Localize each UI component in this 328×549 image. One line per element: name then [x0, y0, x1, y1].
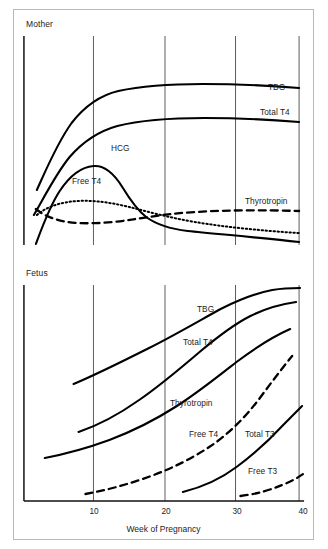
xtick-20: 20	[161, 506, 170, 516]
label-mother-thyrotropin: Thyrotropin	[245, 196, 288, 206]
label-fetus-tbg: TBG	[197, 304, 214, 314]
label-fetus-total-t4: Total T4	[183, 337, 213, 347]
x-axis-title: Week of Pregnancy	[126, 524, 200, 534]
figure-frame: Mother TBG Total T	[13, 9, 314, 540]
label-fetus-thyrotropin: Thyrotropin	[170, 398, 213, 408]
fetus-plot-area	[14, 262, 313, 541]
mother-plot-area	[14, 10, 313, 262]
label-fetus-free-t3: Free T3	[248, 466, 277, 476]
label-fetus-total-t3: Total T3	[245, 429, 275, 439]
curve-fetus-total-t3	[183, 406, 302, 492]
label-mother-total-t4: Total T4	[260, 107, 290, 117]
label-fetus-free-t4: Free T4	[189, 429, 218, 439]
thyroid-pregnancy-figure: Mother TBG Total T	[0, 0, 328, 549]
xtick-10: 10	[89, 506, 98, 516]
curve-fetus-tbg	[74, 288, 300, 384]
label-mother-hcg: HCG	[111, 143, 130, 153]
label-mother-free-t4: Free T4	[72, 176, 101, 186]
panel-mother: Mother TBG Total T	[14, 10, 313, 262]
xtick-30: 30	[232, 506, 241, 516]
panel-fetus: Fetus	[14, 262, 313, 541]
xtick-40: 40	[298, 506, 307, 516]
curve-fetus-free-t3	[240, 474, 303, 496]
label-mother-tbg: TBG	[268, 82, 285, 92]
